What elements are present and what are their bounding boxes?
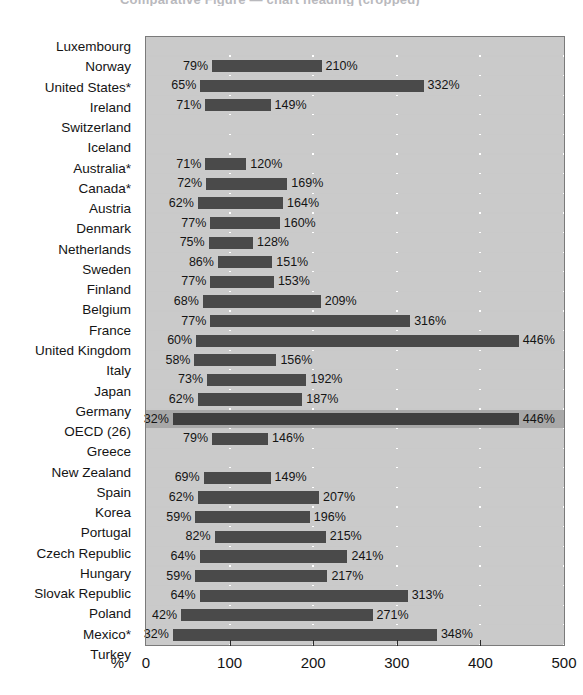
category-label: Netherlands — [0, 240, 138, 260]
range-bar — [181, 609, 372, 621]
row-background — [146, 272, 564, 290]
row-background — [146, 37, 564, 55]
chart-row: 86%151% — [146, 253, 564, 273]
category-label: Switzerland — [0, 118, 138, 138]
range-bar — [195, 511, 310, 523]
category-label: Iceland — [0, 138, 138, 158]
bar-end-value: 446% — [523, 412, 555, 427]
chart-row: 82%215% — [146, 527, 564, 547]
category-label: Korea — [0, 503, 138, 523]
chart-row: 79%146% — [146, 429, 564, 449]
bar-start-value: 32% — [144, 412, 169, 427]
axis-tick-label-0: 0 — [116, 654, 176, 671]
range-bar — [198, 197, 283, 209]
bar-end-value: 128% — [257, 235, 289, 250]
category-label: Austria — [0, 199, 138, 219]
category-label: OECD (26) — [0, 422, 138, 442]
chart-row: 77%316% — [146, 312, 564, 332]
chart-row: 68%209% — [146, 292, 564, 312]
bar-start-value: 42% — [152, 608, 177, 623]
row-background — [146, 429, 564, 447]
bar-start-value: 64% — [170, 549, 195, 564]
bar-start-value: 71% — [176, 157, 201, 172]
bar-end-value: 241% — [351, 549, 383, 564]
range-bar — [210, 315, 410, 327]
chart-row — [146, 135, 564, 155]
range-bar — [173, 413, 519, 425]
bar-end-value: 151% — [276, 255, 308, 270]
chart-title-cropped: Comparative Figure — chart heading (crop… — [120, 0, 465, 6]
chart-row: 77%160% — [146, 214, 564, 234]
chart-row: 32%446% — [146, 410, 564, 430]
bar-end-value: 271% — [377, 608, 409, 623]
axis-tick-label-400: 400 — [450, 654, 510, 671]
bar-end-value: 210% — [326, 59, 358, 74]
row-background — [146, 135, 564, 153]
bar-end-value: 149% — [275, 470, 307, 485]
bar-start-value: 62% — [169, 196, 194, 211]
range-bar — [200, 590, 408, 602]
bar-end-value: 160% — [284, 216, 316, 231]
bar-start-value: 73% — [178, 372, 203, 387]
range-bar — [204, 472, 271, 484]
bar-end-value: 209% — [325, 294, 357, 309]
chart-row: 62%187% — [146, 390, 564, 410]
chart-row: 75%128% — [146, 233, 564, 253]
range-bar — [205, 158, 246, 170]
bar-start-value: 59% — [166, 510, 191, 525]
bar-start-value: 75% — [180, 235, 205, 250]
bar-end-value: 149% — [275, 98, 307, 113]
range-bar — [200, 80, 423, 92]
category-label: Spain — [0, 483, 138, 503]
bar-end-value: 316% — [414, 314, 446, 329]
range-bar — [203, 295, 321, 307]
category-label: New Zealand — [0, 463, 138, 483]
chart-row: 62%164% — [146, 194, 564, 214]
range-bar — [218, 256, 272, 268]
category-label: Poland — [0, 604, 138, 624]
category-label: Norway — [0, 57, 138, 77]
chart-row: 73%192% — [146, 370, 564, 390]
category-label: Denmark — [0, 219, 138, 239]
chart-row: 65%332% — [146, 76, 564, 96]
category-label: France — [0, 321, 138, 341]
bar-start-value: 58% — [165, 353, 190, 368]
range-bar-chart: Comparative Figure — chart heading (crop… — [0, 0, 583, 695]
bar-end-value: 164% — [287, 196, 319, 211]
chart-row: 60%446% — [146, 331, 564, 351]
range-bar — [195, 570, 327, 582]
bar-start-value: 62% — [169, 392, 194, 407]
axis-tick-label-300: 300 — [367, 654, 427, 671]
bar-start-value: 60% — [167, 333, 192, 348]
bar-end-value: 446% — [523, 333, 555, 348]
bar-start-value: 72% — [177, 176, 202, 191]
category-label: Germany — [0, 402, 138, 422]
x-axis: % 0100200300400500 — [0, 646, 583, 686]
chart-title-text: Comparative Figure — chart heading (crop… — [120, 0, 465, 6]
axis-tick-label-500: 500 — [534, 654, 583, 671]
chart-row: 32%348% — [146, 625, 564, 645]
category-label: Australia* — [0, 159, 138, 179]
axis-tick-100 — [230, 640, 231, 646]
bar-end-value: 169% — [291, 176, 323, 191]
chart-row: 71%149% — [146, 96, 564, 116]
chart-row: 64%241% — [146, 547, 564, 567]
category-label: United Kingdom — [0, 341, 138, 361]
range-bar — [210, 276, 274, 288]
chart-row: 79%210% — [146, 57, 564, 77]
chart-row — [146, 449, 564, 469]
bar-end-value: 146% — [272, 431, 304, 446]
bar-end-value: 332% — [428, 78, 460, 93]
chart-row: 64%313% — [146, 586, 564, 606]
bar-end-value: 156% — [280, 353, 312, 368]
axis-tick-200 — [313, 640, 314, 646]
range-bar — [200, 550, 348, 562]
range-bar — [194, 354, 276, 366]
bar-end-value: 192% — [311, 372, 343, 387]
range-bar — [198, 491, 319, 503]
range-bar — [198, 393, 303, 405]
bar-start-value: 59% — [166, 569, 191, 584]
bar-end-value: 153% — [278, 274, 310, 289]
range-bar — [207, 374, 306, 386]
range-bar — [212, 433, 268, 445]
